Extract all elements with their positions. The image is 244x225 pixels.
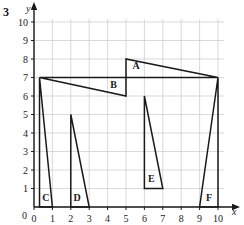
axes [31,2,240,210]
x-tick-label: 4 [105,213,110,224]
y-tick-label: 1 [23,183,28,194]
triangle-a [126,59,218,78]
x-axis-label: x [231,206,237,217]
x-tick-label: 2 [68,213,73,224]
x-tick-label: 1 [50,213,55,224]
shape-label-f: F [206,192,212,203]
y-tick-label: 5 [23,109,28,120]
x-tick-label: 6 [142,213,147,224]
x-tick-label: 5 [124,213,129,224]
shape-label-e: E [148,173,155,184]
y-tick-label: 6 [23,91,28,102]
y-axis-arrow-icon [31,2,37,10]
y-tick-label: 10 [18,17,28,28]
y-tick-label: 9 [23,35,28,46]
triangle-f [200,78,218,208]
y-tick-label: 4 [23,128,28,139]
gridlines [34,19,224,207]
shape-label-b: B [110,79,117,90]
triangle-c [40,78,53,208]
x-tick-label: 0 [32,213,37,224]
x-tick-label: 7 [160,213,165,224]
shape-labels-group: ABCDEF [42,60,212,202]
x-tick-label: 3 [87,213,92,224]
x-tick-label: 8 [179,213,184,224]
y-tick-label: 8 [23,54,28,65]
x-tick-label: 10 [213,213,223,224]
x-tick-label: 9 [197,213,202,224]
figure-page: 3 012345678910012345678910 ABCDEF x y [0,0,244,225]
y-axis-label: y [25,3,31,14]
coordinate-plane-figure: 012345678910012345678910 ABCDEF x y [0,0,244,225]
shape-label-a: A [132,60,140,71]
shape-label-d: D [74,192,81,203]
y-tick-label: 0 [22,210,27,221]
y-tick-label: 3 [23,146,28,157]
y-tick-label: 2 [23,165,28,176]
shape-label-c: C [42,192,49,203]
y-tick-label: 7 [23,72,28,83]
